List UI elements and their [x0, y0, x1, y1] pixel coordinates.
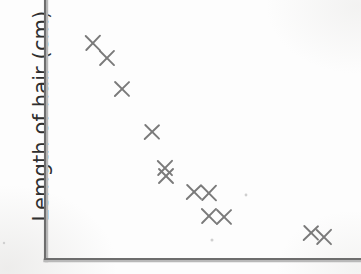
- scan-speck: [3, 242, 5, 244]
- scan-speck: [245, 194, 248, 197]
- data-point-marker: [217, 210, 231, 224]
- plot-area: [0, 0, 361, 274]
- data-point-marker: [187, 185, 201, 199]
- scan-speck: [211, 239, 214, 242]
- data-point-marker: [145, 125, 159, 139]
- data-point-marker: [115, 82, 129, 96]
- data-point-marker: [202, 186, 216, 201]
- data-point-marker: [317, 230, 331, 244]
- data-point-marker: [202, 209, 216, 223]
- data-point-marker: [304, 226, 318, 240]
- data-point-marker: [159, 169, 173, 183]
- data-markers-layer: [86, 36, 331, 245]
- data-point-marker: [100, 51, 114, 65]
- scatter-plot-figure: Lemgth of hair (cm): [0, 0, 361, 274]
- data-point-marker: [86, 36, 100, 51]
